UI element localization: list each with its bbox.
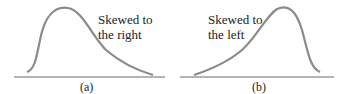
skew-label-line2: the left [208,27,244,42]
panel-caption: (b) [252,80,266,94]
skew-label-line2: the right [98,27,142,42]
skew-label-line1: Skewed to [98,12,153,27]
panel-caption: (a) [80,80,93,94]
panel-skewed-left: Skewed to the left (b) [172,0,344,94]
skew-label-line1: Skewed to [208,12,263,27]
panel-skewed-right: Skewed to the right (a) [0,0,172,94]
